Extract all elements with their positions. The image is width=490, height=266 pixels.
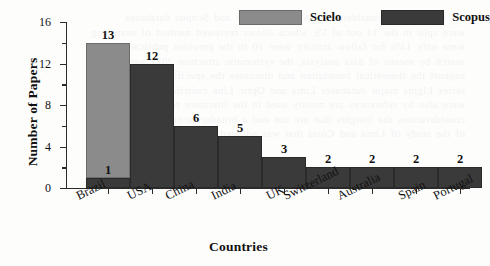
x-axis-category-labels: Brazil USA China India UK Switzerland Au… [66, 190, 470, 236]
y-tick-label-12: 12 [39, 56, 51, 71]
bar-label-spain: 2 [413, 152, 419, 167]
bar-china-scopus: 6 [174, 126, 218, 188]
bar-brazil: 13 1 [86, 43, 130, 188]
bar-label-brazil-scopus: 1 [105, 163, 111, 178]
bar-label-china: 6 [193, 111, 199, 126]
bar-label-brazil-scielo: 13 [102, 28, 115, 43]
legend-item-scopus: Scopus [381, 10, 490, 25]
bar-label-australia: 2 [369, 152, 375, 167]
y-tick-label-0: 0 [45, 181, 51, 196]
bar-label-portugal: 2 [457, 152, 463, 167]
bar-label-uk: 3 [281, 142, 287, 157]
legend-swatch-scielo [239, 10, 302, 25]
bar-series-group: 13 1 12 6 5 [66, 22, 470, 188]
bar-china: 6 [174, 126, 218, 188]
bar-label-india: 5 [237, 121, 243, 136]
bar-india-scopus: 5 [218, 136, 262, 188]
chart-legend: Scielo Scopus [239, 10, 490, 25]
bar-label-usa: 12 [146, 49, 159, 64]
legend-label-scopus: Scopus [452, 10, 490, 25]
y-tick-label-16: 16 [39, 15, 51, 30]
y-tick-label-4: 4 [45, 139, 51, 154]
y-axis-title: Number of Papers [25, 27, 41, 197]
legend-label-scielo: Scielo [310, 10, 341, 25]
bar-usa-scopus: 12 [130, 64, 174, 189]
bar-india: 5 [218, 136, 262, 188]
bar-brazil-scielo: 13 [86, 43, 130, 178]
x-axis-title: Countries [0, 239, 477, 255]
y-tick-label-8: 8 [45, 98, 51, 113]
legend-item-scielo: Scielo [239, 10, 341, 25]
bar-usa: 12 [130, 64, 174, 189]
plot-area: 0 4 8 12 16 13 1 [66, 22, 470, 188]
legend-swatch-scopus [381, 10, 444, 25]
